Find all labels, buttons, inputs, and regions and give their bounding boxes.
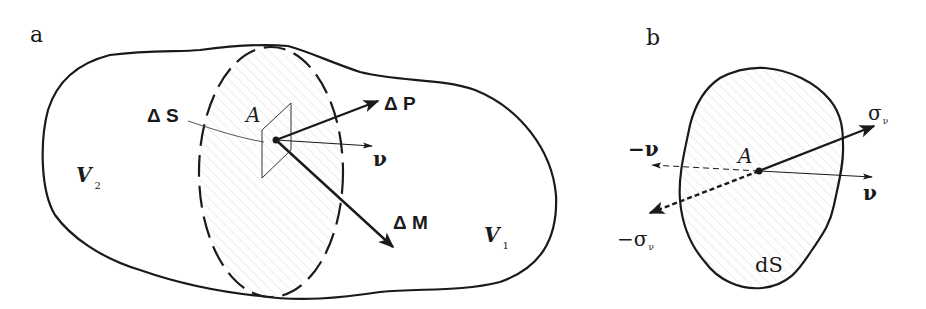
point-a-dot-b (756, 168, 763, 175)
moment-label: Δ M (393, 212, 428, 233)
normal-label-b: ν (863, 181, 877, 205)
stress-label: σν (868, 101, 888, 126)
point-a-label-b: A (736, 144, 752, 168)
surface-label: Δ S (147, 105, 179, 126)
area-label: dS (755, 253, 783, 277)
panel-a-label: a (30, 22, 43, 47)
neg-stress-label: −σν (617, 227, 654, 252)
neg-normal-label: −ν (628, 137, 659, 161)
point-a-label: A (244, 103, 260, 127)
point-a-dot (273, 137, 280, 144)
panel-a: a Δ S A Δ P ν Δ M V2 V1 (30, 22, 556, 299)
normal-label: ν (373, 147, 387, 171)
force-label: Δ P (384, 93, 416, 114)
stress-diagram: a Δ S A Δ P ν Δ M V2 V1 b A dS σν ν −ν −… (0, 0, 926, 309)
region-v1-label: V1 (484, 223, 509, 251)
region-v2-label: V2 (76, 163, 101, 191)
panel-b-label: b (646, 25, 660, 50)
panel-b: b A dS σν ν −ν −σν (617, 25, 888, 288)
